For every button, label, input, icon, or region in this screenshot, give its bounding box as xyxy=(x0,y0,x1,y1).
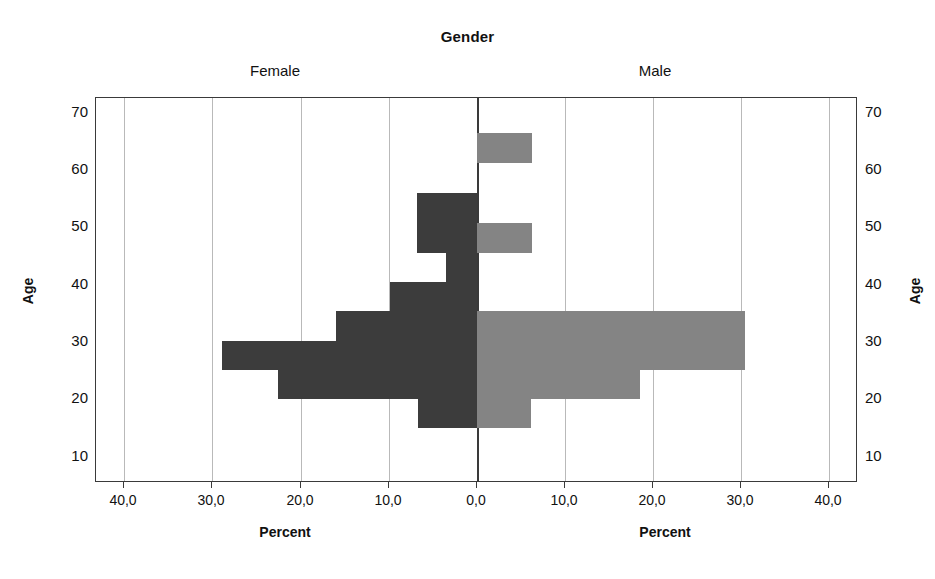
x-tick-label: 30,0 xyxy=(710,492,770,508)
y-tick-label-right: 10 xyxy=(865,447,905,464)
gridline xyxy=(565,98,566,481)
y-tick-label-right: 40 xyxy=(865,275,905,292)
bar-female-55 xyxy=(417,193,477,223)
x-tick-label: 10,0 xyxy=(534,492,594,508)
y-axis-title-left: Age xyxy=(20,261,36,321)
y-tick-label-right: 30 xyxy=(865,332,905,349)
bar-female-35 xyxy=(336,311,477,341)
y-tick-label-left: 70 xyxy=(48,103,88,120)
x-tick-mark xyxy=(123,482,124,488)
x-tick-mark xyxy=(300,482,301,488)
bar-female-40 xyxy=(390,282,478,311)
bar-male-35 xyxy=(477,311,745,341)
gridline xyxy=(301,98,302,481)
y-tick-label-left: 30 xyxy=(48,332,88,349)
y-tick-label-left: 60 xyxy=(48,160,88,177)
x-tick-mark xyxy=(652,482,653,488)
gridline xyxy=(741,98,742,481)
x-tick-mark xyxy=(740,482,741,488)
y-axis-title-right: Age xyxy=(907,261,923,321)
x-axis-title-male: Percent xyxy=(595,524,735,540)
bar-male-20 xyxy=(477,399,531,428)
bar-male-65 xyxy=(477,133,532,163)
bar-female-20 xyxy=(418,399,478,428)
bar-female-45 xyxy=(446,253,477,282)
panel-header-female: Female xyxy=(210,62,340,79)
bar-male-25 xyxy=(477,370,640,399)
gridline xyxy=(829,98,830,481)
x-tick-mark xyxy=(476,482,477,488)
chart-title: Gender xyxy=(0,28,935,45)
plot-area xyxy=(95,97,857,482)
x-tick-label: 20,0 xyxy=(270,492,330,508)
x-tick-label: 0,0 xyxy=(446,492,506,508)
x-tick-mark xyxy=(828,482,829,488)
bar-male-50 xyxy=(477,223,532,253)
bar-male-30 xyxy=(477,341,745,370)
x-tick-mark xyxy=(211,482,212,488)
bar-female-50 xyxy=(417,223,477,253)
x-tick-label: 40,0 xyxy=(798,492,858,508)
bar-female-25 xyxy=(278,370,478,399)
y-tick-label-right: 50 xyxy=(865,217,905,234)
x-tick-label: 30,0 xyxy=(181,492,241,508)
y-tick-label-right: 20 xyxy=(865,389,905,406)
y-tick-label-left: 20 xyxy=(48,389,88,406)
panel-header-male: Male xyxy=(590,62,720,79)
bar-female-30 xyxy=(222,341,477,370)
y-tick-label-right: 60 xyxy=(865,160,905,177)
y-tick-label-left: 50 xyxy=(48,217,88,234)
x-tick-label: 10,0 xyxy=(358,492,418,508)
y-tick-label-left: 10 xyxy=(48,447,88,464)
gridline xyxy=(653,98,654,481)
x-axis-title-female: Percent xyxy=(215,524,355,540)
population-pyramid-chart: Gender Female Male 70605040302010 706050… xyxy=(0,0,935,579)
x-tick-mark xyxy=(388,482,389,488)
gridline xyxy=(212,98,213,481)
y-tick-label-left: 40 xyxy=(48,275,88,292)
x-tick-label: 20,0 xyxy=(622,492,682,508)
x-tick-mark xyxy=(564,482,565,488)
y-tick-label-right: 70 xyxy=(865,103,905,120)
gridline xyxy=(124,98,125,481)
x-tick-label: 40,0 xyxy=(93,492,153,508)
